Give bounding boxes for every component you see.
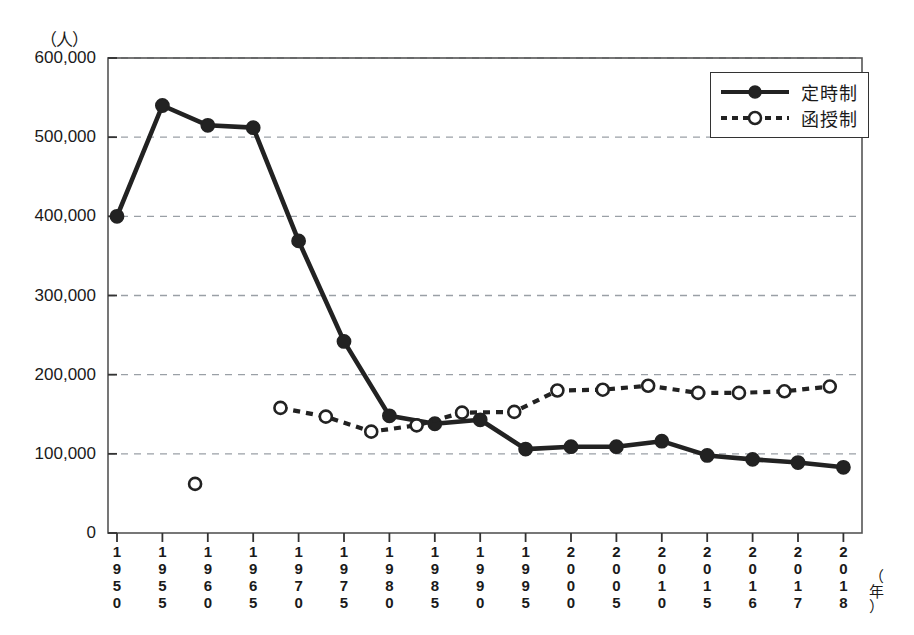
- data-point-teijisei: [337, 335, 350, 348]
- x-axis-tick-label: 1960: [199, 543, 217, 611]
- x-axis-tick-label: 1970: [290, 543, 308, 611]
- data-point-teijisei: [156, 99, 169, 112]
- data-point-kanjusei: [189, 478, 201, 490]
- data-point-kanjusei: [597, 384, 609, 396]
- data-point-teijisei: [746, 453, 759, 466]
- data-point-teijisei: [201, 119, 214, 132]
- chart-container: （人） 0100,000200,000300,000400,000500,000…: [0, 0, 914, 635]
- y-axis-tick-label: 400,000: [35, 206, 108, 226]
- x-axis-tick-label: 1995: [517, 543, 535, 611]
- data-point-kanjusei: [551, 385, 563, 397]
- data-point-kanjusei: [365, 426, 377, 438]
- x-axis-tick-label: 2000: [562, 543, 580, 611]
- x-axis-tick-label: 2016: [744, 543, 762, 611]
- y-axis-tick-labels: 0100,000200,000300,000400,000500,000600,…: [0, 0, 108, 635]
- data-point-teijisei: [110, 210, 123, 223]
- data-point-kanjusei: [320, 411, 332, 423]
- data-point-teijisei: [383, 409, 396, 422]
- x-axis-tick-label: 1985: [426, 543, 444, 611]
- x-axis-tick-label: 1965: [244, 543, 262, 611]
- y-axis-tick-label: 200,000: [35, 365, 108, 385]
- legend-item-kanjusei: 函授制: [719, 105, 858, 131]
- x-axis-tick-label: 2017: [789, 543, 807, 611]
- legend-symbol-solid-filled-circle: [719, 82, 791, 102]
- data-point-teijisei: [701, 449, 714, 462]
- legend-item-teijisei: 定時制: [719, 79, 858, 105]
- chart-legend: 定時制 函授制: [710, 72, 869, 138]
- data-point-teijisei: [519, 442, 532, 455]
- data-point-kanjusei: [824, 381, 836, 393]
- data-point-teijisei: [610, 440, 623, 453]
- legend-symbol-dashed-open-circle: [719, 108, 791, 128]
- data-point-kanjusei: [778, 385, 790, 397]
- y-axis-tick-label: 300,000: [35, 286, 108, 306]
- x-axis-tick-label: 1990: [471, 543, 489, 611]
- data-point-kanjusei: [692, 387, 704, 399]
- y-axis-tick-label: 500,000: [35, 127, 108, 147]
- data-point-kanjusei: [456, 407, 468, 419]
- x-axis-unit-label: （年）: [866, 569, 886, 614]
- data-point-kanjusei: [508, 406, 520, 418]
- data-point-teijisei: [655, 435, 668, 448]
- data-point-teijisei: [247, 121, 260, 134]
- data-point-teijisei: [791, 456, 804, 469]
- y-axis-tick-label: 0: [87, 523, 108, 543]
- x-axis-tick-label: 1955: [153, 543, 171, 611]
- x-axis-tick-label: 2018: [834, 543, 852, 611]
- y-axis-tick-label: 100,000: [35, 444, 108, 464]
- x-axis-tick-label: 1980: [380, 543, 398, 611]
- x-axis-tick-label: 2015: [698, 543, 716, 611]
- legend-label-teijisei: 定時制: [801, 79, 858, 105]
- data-point-teijisei: [564, 440, 577, 453]
- legend-label-kanjusei: 函授制: [801, 105, 858, 131]
- data-point-kanjusei: [274, 402, 286, 414]
- y-axis-tick-label: 600,000: [35, 48, 108, 68]
- data-point-teijisei: [292, 234, 305, 247]
- x-axis-tick-label: 1950: [108, 543, 126, 611]
- data-point-kanjusei: [642, 380, 654, 392]
- data-point-teijisei: [474, 413, 487, 426]
- x-axis-tick-label: 2005: [607, 543, 625, 611]
- data-point-kanjusei: [411, 419, 423, 431]
- x-axis-tick-label: 1975: [335, 543, 353, 611]
- data-point-teijisei: [837, 461, 850, 474]
- x-axis-tick-label: 2010: [653, 543, 671, 611]
- data-point-kanjusei: [733, 387, 745, 399]
